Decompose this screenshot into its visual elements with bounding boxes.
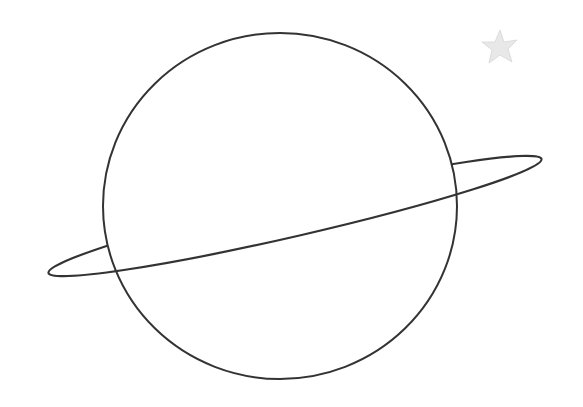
planet-circle — [103, 33, 457, 379]
planet-drawing — [0, 0, 583, 407]
star-icon — [482, 30, 517, 63]
planet-ring — [44, 140, 546, 293]
